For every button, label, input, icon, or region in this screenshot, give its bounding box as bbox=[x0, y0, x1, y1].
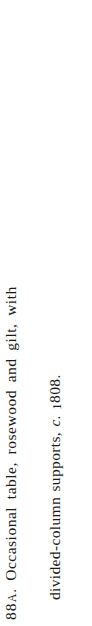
circa-abbreviation: c. bbox=[46, 415, 63, 426]
caption-year: 1808. bbox=[46, 374, 63, 409]
caption-line-2: divided-column supports, c. 1808. bbox=[47, 0, 63, 626]
caption-line-1: 88A.Occasional table, rosewood and gilt,… bbox=[3, 0, 19, 626]
figure-number-digits: 88 bbox=[2, 602, 19, 620]
figure-number-letter: A bbox=[5, 593, 19, 603]
figure-caption-block: 88A.Occasional table, rosewood and gilt,… bbox=[0, 0, 92, 626]
caption-year-remaining-digits: 808 bbox=[46, 379, 63, 403]
caption-line-1-text: Occasional table, rosewood and gilt, wit… bbox=[2, 286, 19, 580]
caption-year-leading-digit: 1 bbox=[50, 403, 64, 410]
caption-terminal-period: . bbox=[46, 374, 63, 378]
caption-line-2-text: divided-column supports, bbox=[46, 432, 63, 600]
figure-number-period: . bbox=[2, 588, 19, 593]
figure-number: 88A. bbox=[2, 588, 19, 620]
